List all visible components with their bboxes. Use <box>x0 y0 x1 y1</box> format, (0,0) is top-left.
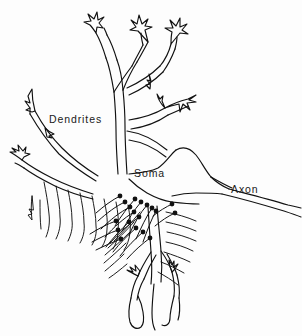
dendrite-descending <box>127 206 180 330</box>
neuron-diagram: Dendrites Soma Axon <box>0 0 302 336</box>
label-axon: Axon <box>231 184 259 195</box>
synaptic-boutons <box>90 196 175 259</box>
dendrite-tree-upper <box>84 12 196 174</box>
dendrite-left <box>10 89 98 199</box>
label-soma: Soma <box>134 168 165 179</box>
label-dendrites: Dendrites <box>49 114 102 125</box>
